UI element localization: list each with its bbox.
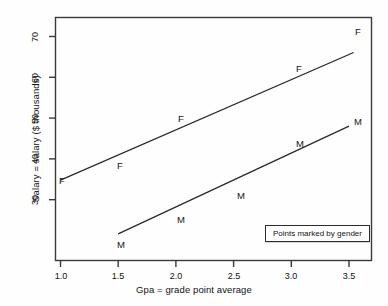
data-point-m-4: M <box>296 138 304 149</box>
data-point-m-5: M <box>354 116 362 127</box>
x-tick-label-3-0: 3.0 <box>276 271 306 281</box>
x-tick-label-2-5: 2.5 <box>219 271 249 281</box>
regression-line-m <box>118 126 349 234</box>
data-point-m-3: M <box>237 190 245 201</box>
x-axis-title: Gpa = grade point average <box>0 284 388 295</box>
data-point-f-3: F <box>178 113 184 124</box>
x-tick-label-1-0: 1.0 <box>46 271 76 281</box>
x-axis-ticks <box>61 261 350 268</box>
y-axis-ticks <box>49 37 56 200</box>
data-point-f-2: F <box>117 160 123 171</box>
data-point-m-2: M <box>177 214 185 225</box>
data-point-m-1: M <box>117 239 125 250</box>
data-point-f-5: F <box>355 26 361 37</box>
plot-canvas <box>0 0 388 306</box>
regression-line-f <box>61 53 354 181</box>
legend-box: Points marked by gender <box>265 225 370 242</box>
x-tick-label-3-5: 3.5 <box>334 271 364 281</box>
data-point-f-1: F <box>59 175 65 186</box>
y-axis-title: Salary = salary ($ thousands) <box>30 9 41 269</box>
x-tick-label-1-5: 1.5 <box>103 271 133 281</box>
scatter-plot-figure: 70 60 50 40 30 1.0 1.5 2.0 2.5 3.0 3.5 G… <box>0 0 388 306</box>
data-point-f-4: F <box>296 63 302 74</box>
legend-text: Points marked by gender <box>273 229 362 238</box>
x-tick-label-2-0: 2.0 <box>161 271 191 281</box>
